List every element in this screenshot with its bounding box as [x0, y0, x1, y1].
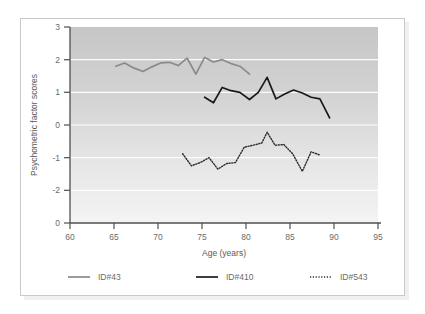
x-tick-labels: 60 65 70 75 80 85 90 95	[65, 232, 383, 242]
y-tick-labels: 3 2 1 0 -1 -2 0	[52, 22, 60, 228]
y-axis-ticks	[64, 27, 70, 223]
y-tick-label: -2	[52, 185, 60, 195]
x-tick-label: 70	[153, 232, 163, 242]
y-tick-label: 2	[55, 55, 60, 65]
legend-item-id43[interactable]: ID#43	[68, 272, 121, 282]
y-tick-label: -1	[52, 153, 60, 163]
x-axis-title: Age (years)	[202, 248, 246, 258]
x-tick-label: 60	[65, 232, 75, 242]
y-tick-label: 0	[55, 120, 60, 130]
legend-label: ID#43	[98, 272, 121, 282]
legend-label: ID#543	[340, 272, 368, 282]
y-tick-label: 3	[55, 22, 60, 32]
chart-canvas: 3 2 1 0 -1 -2 0 60 65 70 75 80 85 90 95 …	[0, 0, 425, 314]
y-tick-label: 0	[55, 218, 60, 228]
figure-container: 3 2 1 0 -1 -2 0 60 65 70 75 80 85 90 95 …	[0, 0, 425, 314]
x-tick-label: 90	[329, 232, 339, 242]
legend-label: ID#410	[226, 272, 254, 282]
x-tick-label: 65	[109, 232, 119, 242]
y-tick-label: 1	[55, 87, 60, 97]
x-tick-label: 85	[285, 232, 295, 242]
legend-item-id543[interactable]: ID#543	[310, 272, 368, 282]
x-axis-ticks	[70, 223, 378, 229]
x-tick-label: 80	[241, 232, 251, 242]
y-axis-title: Psychometric factor scores	[29, 74, 39, 176]
x-tick-label: 95	[373, 232, 383, 242]
legend-item-id410[interactable]: ID#410	[196, 272, 254, 282]
x-tick-label: 75	[197, 232, 207, 242]
chart-legend: ID#43ID#410ID#543	[68, 272, 368, 282]
